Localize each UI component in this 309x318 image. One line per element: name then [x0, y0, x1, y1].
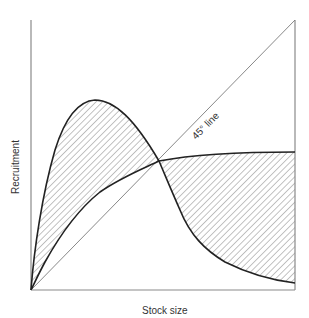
y-axis-label: Recruitment: [10, 140, 21, 194]
hatched-region-left: [31, 100, 159, 290]
diagonal-label: 45° line: [190, 110, 222, 142]
x-axis-label: Stock size: [142, 305, 188, 316]
recruitment-chart: 45° line Recruitment Stock size: [0, 0, 309, 318]
